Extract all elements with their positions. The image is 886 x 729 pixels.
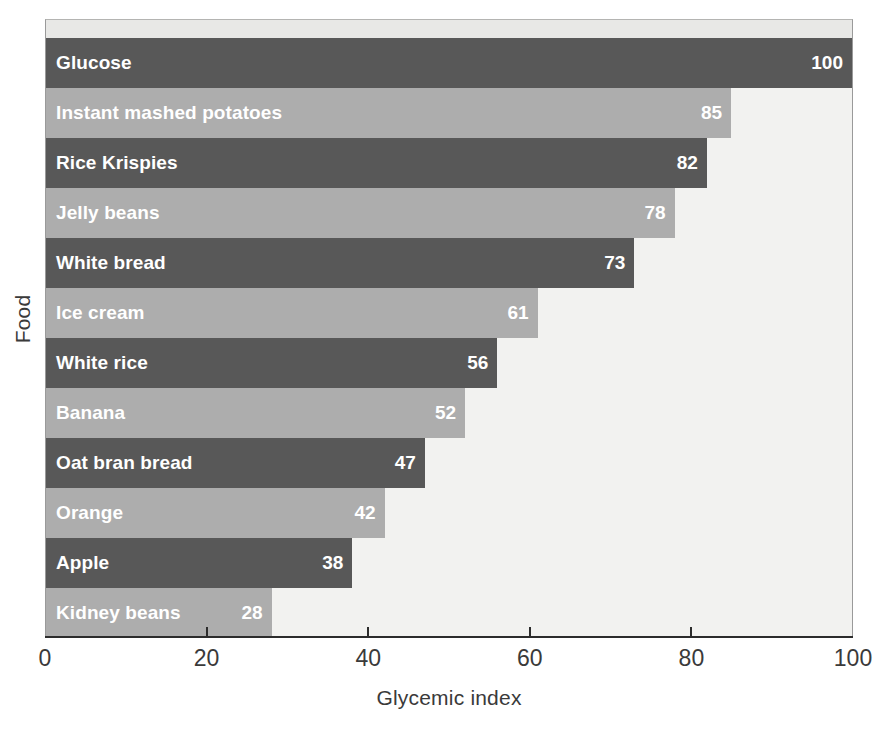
bar-value-label: 61 — [508, 302, 529, 324]
bar-category-label: White rice — [56, 352, 148, 374]
bar-row: Glucose100 — [46, 38, 852, 88]
x-axis-tick-label: 100 — [834, 645, 872, 672]
bar-row: Jelly beans78 — [46, 188, 852, 238]
x-axis-tick-label: 0 — [39, 645, 52, 672]
plot-area: Glucose100Instant mashed potatoes85Rice … — [45, 19, 853, 637]
bar-series: Glucose100Instant mashed potatoes85Rice … — [46, 38, 852, 636]
bar-value-label: 82 — [677, 152, 698, 174]
bar-value-label: 28 — [242, 602, 263, 624]
plot-top-spacer — [46, 20, 852, 38]
glycemic-index-bar-chart: Food Glucose100Instant mashed potatoes85… — [0, 0, 886, 729]
bar-category-label: Instant mashed potatoes — [56, 102, 282, 124]
bar-value-label: 73 — [604, 252, 625, 274]
bar-category-label: Glucose — [56, 52, 132, 74]
bar-row: Orange42 — [46, 488, 852, 538]
bar-value-label: 38 — [322, 552, 343, 574]
bar-value-label: 56 — [467, 352, 488, 374]
bar-row: Oat bran bread47 — [46, 438, 852, 488]
bar: Apple38 — [46, 538, 352, 588]
bar: White bread73 — [46, 238, 634, 288]
bar-value-label: 100 — [811, 52, 843, 74]
bar: Ice cream61 — [46, 288, 538, 338]
bar: Glucose100 — [46, 38, 852, 88]
bar-value-label: 42 — [354, 502, 375, 524]
x-axis-tick-labels: 020406080100 — [45, 645, 853, 675]
bar-row: Rice Krispies82 — [46, 138, 852, 188]
bar: Jelly beans78 — [46, 188, 675, 238]
bar-category-label: Rice Krispies — [56, 152, 178, 174]
bar-value-label: 47 — [395, 452, 416, 474]
bar-row: Apple38 — [46, 538, 852, 588]
x-axis-tick-label: 20 — [194, 645, 220, 672]
bar-row: Banana52 — [46, 388, 852, 438]
bar-row: Ice cream61 — [46, 288, 852, 338]
bar-category-label: Jelly beans — [56, 202, 160, 224]
bar: White rice56 — [46, 338, 497, 388]
bar-row: Instant mashed potatoes85 — [46, 88, 852, 138]
bar-value-label: 85 — [701, 102, 722, 124]
x-axis-tick-label: 60 — [517, 645, 543, 672]
bar-value-label: 78 — [645, 202, 666, 224]
y-axis-title: Food — [0, 0, 46, 637]
bar-category-label: Oat bran bread — [56, 452, 193, 474]
bar-category-label: Ice cream — [56, 302, 145, 324]
bar-category-label: Banana — [56, 402, 125, 424]
bar-row: White bread73 — [46, 238, 852, 288]
x-axis-line — [45, 636, 853, 638]
bar-row: Kidney beans28 — [46, 588, 852, 637]
bar: Instant mashed potatoes85 — [46, 88, 731, 138]
bar-category-label: White bread — [56, 252, 166, 274]
bar-row: White rice56 — [46, 338, 852, 388]
x-axis-tick-label: 80 — [679, 645, 705, 672]
x-axis-tick-label: 40 — [355, 645, 381, 672]
bar: Kidney beans28 — [46, 588, 272, 637]
bar-category-label: Orange — [56, 502, 123, 524]
bar-value-label: 52 — [435, 402, 456, 424]
bar-category-label: Kidney beans — [56, 602, 181, 624]
bar: Rice Krispies82 — [46, 138, 707, 188]
bar: Orange42 — [46, 488, 385, 538]
x-axis-title: Glycemic index — [45, 686, 853, 710]
y-axis-title-text: Food — [11, 294, 35, 343]
bar-category-label: Apple — [56, 552, 109, 574]
bar: Oat bran bread47 — [46, 438, 425, 488]
bar: Banana52 — [46, 388, 465, 438]
